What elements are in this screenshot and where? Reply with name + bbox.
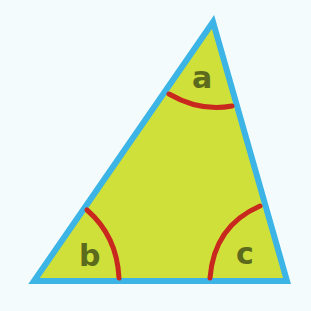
angle-label-b: b xyxy=(79,238,100,273)
angle-label-c: c xyxy=(236,236,254,271)
angle-label-a: a xyxy=(192,60,212,95)
triangle-diagram: a b c xyxy=(0,0,311,311)
